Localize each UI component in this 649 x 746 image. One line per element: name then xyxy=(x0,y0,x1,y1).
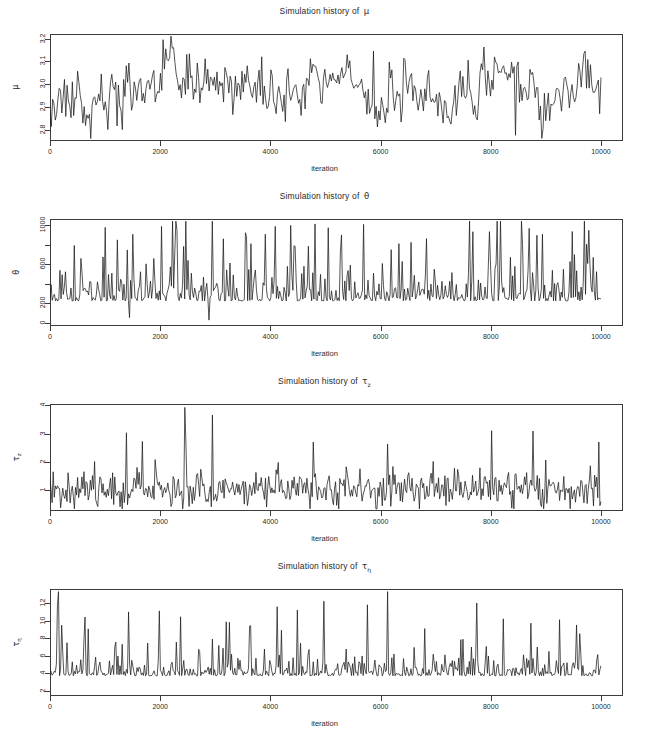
x-axis-title: iteration xyxy=(0,349,649,358)
x-tick-label: 4000 xyxy=(263,703,279,710)
panel-title-symbol-subscript: η xyxy=(367,566,371,573)
scan-artifact-text xyxy=(36,737,366,744)
x-tick-label: 10000 xyxy=(591,148,610,155)
trace-path xyxy=(50,221,601,320)
y-tick-label: 4 xyxy=(40,671,47,675)
x-axis: 0200040006000800010000 xyxy=(50,696,623,718)
x-tick-label: 6000 xyxy=(373,333,389,340)
x-axis-title: iteration xyxy=(0,719,649,728)
y-tick-label: 200 xyxy=(40,297,47,309)
x-tick-label: 10000 xyxy=(591,518,610,525)
x-tick xyxy=(491,141,492,146)
x-axis-title: iteration xyxy=(0,534,649,543)
panel-title: Simulation history of τz xyxy=(0,376,649,388)
y-tick-label: 3.1 xyxy=(40,56,47,66)
x-tick xyxy=(270,326,271,331)
x-tick xyxy=(50,696,51,701)
x-tick xyxy=(381,696,382,701)
x-tick-label: 8000 xyxy=(483,518,499,525)
x-axis: 0200040006000800010000 xyxy=(50,141,623,163)
plot-area xyxy=(50,34,623,141)
x-tick xyxy=(601,511,602,516)
x-tick-label: 2000 xyxy=(152,333,168,340)
y-tick-label: 8 xyxy=(40,636,47,640)
x-tick-label: 4000 xyxy=(263,518,279,525)
x-tick-label: 4000 xyxy=(263,148,279,155)
x-tick-label: 8000 xyxy=(483,333,499,340)
y-tick-label: 3 xyxy=(40,431,47,435)
y-tick-label: 2.9 xyxy=(40,101,47,111)
trace-line-mu xyxy=(50,34,623,141)
trace-panel-theta: Simulation history of θ θ 02006001000 02… xyxy=(0,185,649,370)
x-tick-label: 6000 xyxy=(373,518,389,525)
trace-path xyxy=(50,592,601,676)
y-tick-label: 12 xyxy=(40,599,47,607)
y-tick-label: 3.0 xyxy=(40,79,47,89)
trace-line-theta xyxy=(50,219,623,326)
x-tick xyxy=(50,141,51,146)
trace-line-tau-z xyxy=(50,404,623,511)
x-tick xyxy=(381,511,382,516)
x-tick xyxy=(601,696,602,701)
y-axis: 24681012 xyxy=(0,589,50,696)
plot-area xyxy=(50,589,623,696)
x-tick xyxy=(160,141,161,146)
panel-title-symbol: τ xyxy=(360,376,367,386)
panel-title: Simulation history of θ xyxy=(0,191,649,203)
x-tick xyxy=(270,696,271,701)
y-tick-label: 4 xyxy=(40,403,47,407)
panel-title-symbol: μ xyxy=(362,6,370,16)
x-tick xyxy=(381,326,382,331)
x-tick-label: 8000 xyxy=(483,703,499,710)
x-tick-label: 8000 xyxy=(483,148,499,155)
y-tick-label: 2 xyxy=(40,688,47,692)
y-axis: 1234 xyxy=(0,404,50,511)
x-axis: 0200040006000800010000 xyxy=(50,511,623,533)
x-tick-label: 0 xyxy=(48,333,52,340)
x-tick-label: 6000 xyxy=(373,703,389,710)
trace-panel-mu: Simulation history of μ μ 2.82.93.03.13.… xyxy=(0,0,649,185)
y-tick-label: 3.2 xyxy=(40,33,47,43)
x-tick xyxy=(160,511,161,516)
trace-path xyxy=(50,407,601,508)
y-tick-label: 0 xyxy=(40,321,47,325)
panel-title-text: Simulation history of xyxy=(280,6,362,16)
panel-title-symbol: θ xyxy=(362,191,369,201)
x-tick-label: 0 xyxy=(48,703,52,710)
panel-title: Simulation history of μ xyxy=(0,6,649,18)
panel-title-text: Simulation history of xyxy=(278,376,360,386)
x-tick xyxy=(270,141,271,146)
simulation-history-figure: Simulation history of μ μ 2.82.93.03.13.… xyxy=(0,0,649,746)
x-tick xyxy=(50,326,51,331)
x-tick xyxy=(50,511,51,516)
x-axis-title: iteration xyxy=(0,164,649,173)
x-tick xyxy=(270,511,271,516)
x-axis: 0200040006000800010000 xyxy=(50,326,623,348)
x-tick-label: 2000 xyxy=(152,703,168,710)
x-tick-label: 2000 xyxy=(152,518,168,525)
plot-area xyxy=(50,404,623,511)
panel-title: Simulation history of τη xyxy=(0,561,649,573)
y-tick-label: 6 xyxy=(40,653,47,657)
y-tick-label: 600 xyxy=(40,258,47,270)
panel-title-text: Simulation history of xyxy=(278,561,360,571)
y-tick-label: 2 xyxy=(40,459,47,463)
x-tick xyxy=(381,141,382,146)
x-tick-label: 2000 xyxy=(152,148,168,155)
x-tick-label: 0 xyxy=(48,518,52,525)
y-axis: 2.82.93.03.13.2 xyxy=(0,34,50,141)
x-tick xyxy=(601,141,602,146)
y-tick-label: 1 xyxy=(40,487,47,491)
x-tick-label: 4000 xyxy=(263,333,279,340)
trace-line-tau-eta xyxy=(50,589,623,696)
x-tick xyxy=(491,511,492,516)
y-tick-label: 10 xyxy=(40,616,47,624)
plot-area xyxy=(50,219,623,326)
y-axis: 02006001000 xyxy=(0,219,50,326)
panel-title-text: Simulation history of xyxy=(280,191,362,201)
x-tick xyxy=(160,326,161,331)
y-tick-label: 1000 xyxy=(40,217,47,233)
x-tick-label: 10000 xyxy=(591,333,610,340)
x-tick-label: 10000 xyxy=(591,703,610,710)
panel-title-symbol-subscript: z xyxy=(368,381,371,388)
